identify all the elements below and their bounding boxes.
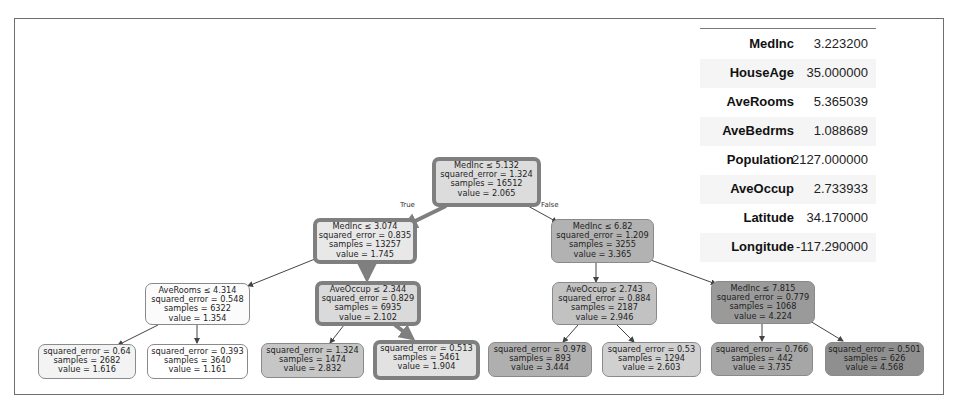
feature-name: Latitude [743, 210, 794, 225]
tree-node-root: MedInc ≤ 5.132 squared_error = 1.324 sam… [432, 157, 541, 207]
node-value: value = 1.616 [39, 365, 135, 374]
table-row: Longitude -117.290000 [700, 233, 876, 262]
node-value: value = 1.161 [148, 365, 247, 374]
feature-name: HouseAge [730, 65, 794, 80]
table-row: HouseAge 35.000000 [700, 59, 876, 88]
edge-l2b-to-leaf4 [395, 325, 412, 338]
feature-value: 35.000000 [807, 65, 868, 80]
node-value: value = 3.365 [552, 250, 653, 259]
feature-name: AveOccup [730, 181, 794, 196]
table-row: MedInc 3.223200 [700, 30, 876, 59]
tree-leaf-4: squared_error = 0.513 samples = 5461 val… [373, 340, 480, 380]
node-value: value = 2.102 [319, 313, 417, 322]
edge-label-false: False [541, 201, 559, 209]
edge-l2a-to-leaf1 [118, 325, 158, 345]
tree-leaf-8: squared_error = 0.501 samples = 626 valu… [825, 342, 924, 376]
table-row: AveRooms 5.365039 [700, 88, 876, 117]
feature-name: AveBedrms [722, 123, 794, 138]
node-value: value = 1.745 [317, 250, 413, 259]
feature-value: 2.733933 [814, 181, 868, 196]
node-value: value = 1.354 [146, 314, 249, 323]
feature-value: 3.223200 [814, 36, 868, 51]
node-value: value = 3.735 [712, 363, 812, 372]
tree-leaf-3: squared_error = 1.324 samples = 1474 val… [261, 343, 364, 378]
tree-leaf-5: squared_error = 0.978 samples = 893 valu… [488, 342, 592, 377]
edge-l2c-to-leaf5 [563, 325, 578, 342]
table-top-rule [700, 28, 876, 29]
tree-leaf-6: squared_error = 0.53 samples = 1294 valu… [602, 342, 701, 377]
feature-value: 5.365039 [814, 94, 868, 109]
tree-node-l2-aveoccup-2743: AveOccup ≤ 2.743 squared_error = 0.884 s… [552, 282, 657, 325]
tree-node-l2-averooms: AveRooms ≤ 4.314 squared_error = 0.548 s… [145, 283, 250, 325]
feature-value: 2127.000000 [792, 152, 868, 167]
table-row: Latitude 34.170000 [700, 204, 876, 233]
node-value: value = 2.603 [603, 363, 700, 372]
tree-node-l1-right: MedInc ≤ 6.82 squared_error = 1.209 samp… [551, 219, 654, 263]
feature-name: AveRooms [727, 94, 794, 109]
feature-name: Population [727, 152, 794, 167]
node-value: value = 2.065 [436, 189, 537, 198]
edge-l2c-to-leaf6 [617, 325, 634, 342]
tree-node-l2-aveoccup-2344: AveOccup ≤ 2.344 squared_error = 0.829 s… [315, 281, 421, 326]
tree-leaf-1: squared_error = 0.64 samples = 2682 valu… [38, 344, 136, 379]
feature-name: MedInc [749, 36, 794, 51]
tree-node-l2-medinc-7815: MedInc ≤ 7.815 squared_error = 0.779 sam… [711, 281, 815, 324]
edge-left-to-l2a [248, 259, 315, 286]
tree-node-l1-left: MedInc ≤ 3.074 squared_error = 0.835 sam… [313, 218, 417, 264]
node-value: value = 4.224 [712, 312, 814, 321]
table-row: AveBedrms 1.088689 [700, 117, 876, 146]
feature-value: -117.290000 [796, 239, 868, 254]
node-value: value = 2.946 [553, 313, 656, 322]
tree-leaf-7: squared_error = 0.766 samples = 442 valu… [711, 342, 813, 376]
node-value: value = 4.568 [826, 363, 923, 372]
feature-name: Longitude [731, 239, 794, 254]
edge-l2b-to-leaf3 [330, 325, 344, 343]
table-row: Population 2127.000000 [700, 146, 876, 175]
feature-value: 1.088689 [814, 123, 868, 138]
tree-leaf-2: squared_error = 0.393 samples = 3640 val… [147, 344, 248, 379]
table-row: AveOccup 2.733933 [700, 175, 876, 204]
edge-label-true: True [400, 201, 415, 209]
node-value: value = 3.444 [489, 363, 591, 372]
node-value: value = 2.832 [262, 364, 363, 373]
node-value: value = 1.904 [377, 362, 476, 371]
edge-right-to-l2d [648, 259, 716, 284]
feature-value: 34.170000 [807, 210, 868, 225]
